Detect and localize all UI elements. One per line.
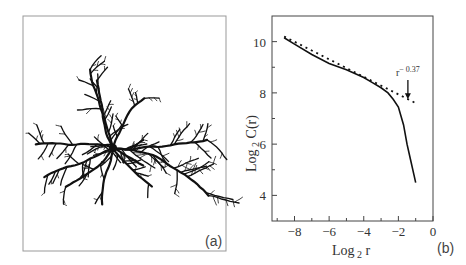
y-tick-label: 4 [260,188,267,203]
x-tick-label: −6 [322,224,336,239]
figure: (a) −8−6−4−2046810 r− 0.37 Log 2 r Log 2… [0,0,466,265]
y-tick-label: 8 [260,86,267,101]
x-tick-label: 0 [430,224,437,239]
panel-b-label: (b) [437,240,454,256]
x-tick-label: −8 [288,224,302,239]
panel-a-label: (a) [205,233,222,249]
y-axis-label: Log 2 C(r) [244,115,261,172]
x-tick-label: −2 [391,224,405,239]
panel-b: −8−6−4−2046810 r− 0.37 Log 2 r Log 2 C(r… [244,16,454,260]
y-tick-label: 10 [253,35,266,50]
panel-a: (a) [23,16,243,251]
x-axis-label: Log 2 r [332,243,371,260]
plot-frame [272,16,433,221]
x-tick-label: −4 [357,224,371,239]
